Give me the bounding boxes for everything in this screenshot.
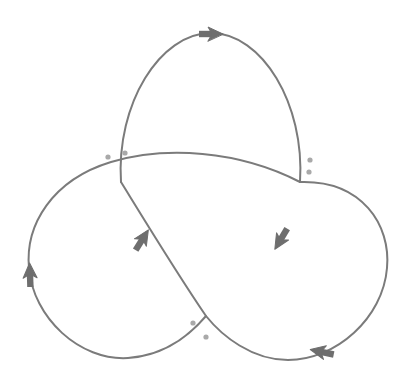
knot-diagram-figure: [0, 0, 413, 386]
knot-diagram-canvas: [0, 0, 413, 386]
strand-upper-loop: [121, 33, 301, 182]
strand-right-loop: [121, 182, 387, 360]
dot-left-inner: [122, 150, 127, 155]
dot-bottom-lower: [203, 334, 208, 339]
dot-right-upper: [307, 157, 312, 162]
arrow-left-outer: [23, 263, 38, 287]
dot-left-outer: [105, 154, 110, 159]
arrow-inner-right: [269, 225, 293, 253]
knot-strands-group: [29, 33, 388, 360]
arrow-shaft: [199, 31, 212, 37]
orientation-arrows-group: [23, 27, 336, 361]
dot-right-lower: [306, 169, 311, 174]
dot-bottom-upper: [190, 320, 195, 325]
arrow-top: [199, 27, 223, 41]
arrow-bottom-right: [309, 343, 335, 362]
strand-left-loop: [29, 153, 300, 358]
